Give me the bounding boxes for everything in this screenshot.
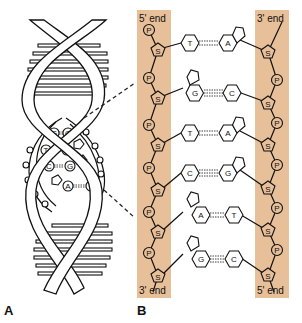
svg-text:P: P: [274, 246, 279, 255]
svg-text:S: S: [155, 273, 160, 282]
phosphate: P: [144, 248, 155, 259]
svg-text:S: S: [155, 229, 160, 238]
svg-text:A: A: [225, 39, 231, 48]
svg-text:S: S: [265, 227, 270, 236]
svg-text:T: T: [232, 211, 237, 220]
phosphate: P: [144, 25, 155, 36]
svg-text:P: P: [274, 204, 279, 213]
base-pair-6: G C: [187, 236, 243, 267]
phosphate: P: [272, 160, 283, 171]
panel-b-label: B: [137, 303, 146, 318]
base-pair-1: T A: [181, 27, 245, 51]
phosphate: P: [144, 120, 155, 131]
svg-text:G: G: [192, 89, 198, 98]
panel-a-label: A: [4, 303, 14, 318]
phosphate: P: [272, 118, 283, 129]
svg-text:A: A: [225, 129, 231, 138]
svg-text:S: S: [155, 142, 160, 151]
svg-text:C: C: [231, 255, 237, 264]
svg-text:P: P: [146, 26, 151, 35]
right-strand-top-label: 3' end: [257, 13, 284, 24]
phosphate: P: [272, 245, 283, 256]
phosphate: P: [144, 73, 155, 84]
svg-text:P: P: [146, 249, 151, 258]
svg-text:S: S: [155, 47, 160, 56]
svg-text:S: S: [265, 272, 270, 281]
phosphate: P: [272, 75, 283, 86]
svg-text:A: A: [198, 211, 204, 220]
svg-text:P: P: [274, 119, 279, 128]
phosphate: P: [144, 207, 155, 218]
left-strand-bottom-label: 3' end: [139, 285, 166, 296]
right-strand-bottom-label: 5' end: [257, 285, 284, 296]
svg-text:S: S: [155, 187, 160, 196]
svg-text:G: G: [225, 169, 231, 178]
svg-text:S: S: [265, 49, 270, 58]
svg-text:P: P: [146, 121, 151, 130]
svg-text:C: C: [229, 89, 235, 98]
zoom-connector-bottom: [104, 190, 135, 218]
svg-text:P: P: [146, 74, 151, 83]
base-label: A: [65, 182, 71, 191]
base-pair-4: C G: [181, 157, 245, 181]
svg-text:P: P: [146, 208, 151, 217]
svg-text:P: P: [274, 161, 279, 170]
svg-text:S: S: [265, 100, 270, 109]
base-pair-2: G C: [186, 70, 241, 101]
glycosidic-bonds: [163, 40, 263, 274]
left-strand-top-label: 5' end: [139, 13, 166, 24]
svg-text:S: S: [265, 185, 270, 194]
dna-structure-diagram: G C T A C G: [0, 0, 302, 323]
svg-text:C: C: [187, 169, 193, 178]
base-label: G: [67, 162, 73, 171]
base-pair-3: T A: [181, 117, 245, 141]
svg-text:P: P: [274, 76, 279, 85]
svg-text:P: P: [146, 164, 151, 173]
svg-text:T: T: [188, 39, 193, 48]
svg-text:S: S: [155, 95, 160, 104]
base-pair-5: A T: [187, 192, 243, 223]
base-pair-ladder: 5' end 3' end 3' end 5' end P P P: [137, 10, 289, 318]
phosphate: P: [144, 163, 155, 174]
svg-text:G: G: [198, 255, 204, 264]
double-helix: G C T A C G: [4, 20, 135, 318]
phosphate: P: [272, 203, 283, 214]
svg-text:S: S: [265, 142, 270, 151]
svg-text:T: T: [188, 129, 193, 138]
